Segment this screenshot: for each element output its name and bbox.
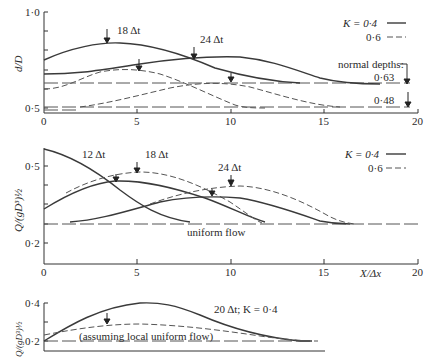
middle-chart: 0·5 0·2 Q/(gD³)½ 0 5 10 15 X/Δx 20 12 Δt… xyxy=(12,148,424,279)
top-label-18dt: 18 Δt xyxy=(117,24,140,36)
mid-ylabel: Q/(gD³)½ xyxy=(12,189,25,232)
bot-ylabel: Q/(gD³)½ xyxy=(14,321,24,357)
bot-ytick-04: 0·4 xyxy=(25,297,40,309)
figure: 1·0 0·5 d/D 0 5 10 15 20 18 Δt 24 Δt K =… xyxy=(0,0,436,361)
top-ytick-1: 1·0 xyxy=(25,6,40,18)
mid-curve-24dt-k04 xyxy=(70,197,350,224)
bottom-chart: 0·4 0·2 Q/(gD³)½ 20 Δt; K = 0·4 (assumin… xyxy=(14,297,325,357)
bot-ytick-02: 0·2 xyxy=(25,335,40,347)
mid-xtick-0: 0 xyxy=(41,266,47,278)
top-chart: 1·0 0·5 d/D 0 5 10 15 20 18 Δt 24 Δt K =… xyxy=(12,6,424,127)
top-xtick-5: 5 xyxy=(134,115,140,127)
mid-ytick-05: 0·5 xyxy=(25,160,40,172)
top-ytick-05: 0·5 xyxy=(25,102,40,114)
top-ylabel: d/D xyxy=(12,55,24,72)
mid-xtick-10: 10 xyxy=(225,266,237,278)
top-legend-k04: K = 0·4 xyxy=(342,17,378,29)
mid-label-24dt: 24 Δt xyxy=(218,161,241,173)
mid-xtick-20: 20 xyxy=(412,266,424,278)
top-curve-24dt-k04 xyxy=(44,57,380,84)
top-xtick-10: 10 xyxy=(225,115,237,127)
top-n048: 0·48 xyxy=(374,94,395,106)
top-xtick-0: 0 xyxy=(41,115,47,127)
mid-xtick-5: 5 xyxy=(134,266,140,278)
mid-legend-06: 0·6 xyxy=(368,162,383,174)
top-normal-depths: normal depths: xyxy=(338,58,404,70)
mid-legend-k04: K = 0·4 xyxy=(344,148,380,160)
mid-ytick-02: 0·2 xyxy=(25,237,40,249)
mid-label-18dt: 18 Δt xyxy=(145,148,168,160)
top-curve-24dt-k06 xyxy=(80,83,340,107)
top-label-24dt: 24 Δt xyxy=(200,33,223,45)
top-legend-06: 0·6 xyxy=(366,31,381,43)
top-xtick-20: 20 xyxy=(412,115,424,127)
bot-title: 20 Δt; K = 0·4 xyxy=(214,303,278,315)
mid-label-12dt: 12 Δt xyxy=(82,148,105,160)
mid-xlabel: X/Δx xyxy=(359,267,381,279)
top-xtick-15: 15 xyxy=(318,115,330,127)
top-n063: 0·63 xyxy=(374,71,395,83)
top-curve-18dt-k06 xyxy=(44,70,265,108)
bot-note: (assuming local uniform flow) xyxy=(79,330,213,343)
mid-xtick-15: 15 xyxy=(318,266,330,278)
top-curve-18dt-k04 xyxy=(44,43,300,83)
mid-label-uniform: uniform flow xyxy=(187,226,245,238)
